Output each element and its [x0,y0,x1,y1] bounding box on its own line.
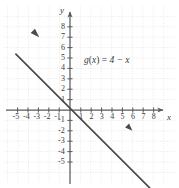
x-tick-label--5: -5 [13,113,20,121]
line-arrowhead-upper-left [31,29,42,40]
x-tick-label-7: 7 [141,113,145,121]
x-tick-label--4: -4 [23,113,30,121]
function-equals: = [102,55,107,65]
coordinate-plane-svg [0,0,179,188]
function-equation-label: g(x) = 4 − x [84,56,130,66]
y-tick-label-8: 8 [61,23,65,31]
y-tick-label-2: 2 [61,85,65,93]
x-tick-label-5: 5 [121,113,125,121]
y-tick-label-6: 6 [61,44,65,52]
x-axis-label: x [167,113,171,122]
y-tick-label-1: 1 [61,96,65,104]
y-tick-label-7: 7 [61,33,65,41]
function-line [16,54,166,188]
y-axis-label: y [60,6,64,15]
y-tick-label--5: -5 [58,158,65,166]
y-tick-label--3: -3 [58,137,65,145]
y-tick-label-3: 3 [61,75,65,83]
grid-lines [4,6,176,182]
x-tick-label-2: 2 [89,113,93,121]
x-tick-label--2: -2 [44,113,51,121]
y-tick-label-4: 4 [61,64,65,72]
line-arrowhead-lower-right [125,124,134,133]
x-tick-label-4: 4 [110,113,114,121]
y-tick-label--2: -2 [58,127,65,135]
x-tick-label-3: 3 [100,113,104,121]
x-tick-label-6: 6 [131,113,135,121]
x-tick-label-1: 1 [79,113,83,121]
x-tick-label--3: -3 [33,113,40,121]
function-expression: 4 − x [109,55,129,65]
y-tick-label--4: -4 [58,148,65,156]
y-tick-label-5: 5 [61,54,65,62]
y-tick-label--1: -1 [58,116,65,124]
graph-figure: x y -5 -4 -3 -2 -1 1 2 3 4 5 6 7 8 1 2 3… [0,0,179,188]
x-tick-label-8: 8 [152,113,156,121]
function-paren-close: ) [96,55,99,65]
